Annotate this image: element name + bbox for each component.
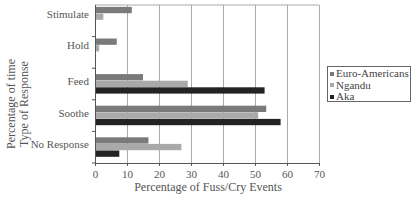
- bar-euro-americans-no-response: [96, 137, 148, 143]
- bar-euro-americans-hold: [96, 39, 117, 45]
- x-tick-label: 60: [282, 168, 294, 180]
- category-label: No Response: [31, 138, 89, 150]
- legend-label-euro-americans: Euro-Americans: [336, 68, 409, 80]
- y-axis-title: Percentage of time Type of Response: [4, 59, 31, 149]
- category-label: Feed: [68, 75, 90, 87]
- category-label: Stimulate: [47, 8, 89, 20]
- category-label: Hold: [67, 39, 90, 51]
- bar-euro-americans-feed: [96, 74, 143, 80]
- legend-swatch-ngandu: [330, 83, 334, 87]
- legend-item-aka: Aka: [330, 91, 410, 103]
- x-tick-label: 10: [122, 168, 134, 180]
- y-axis-title-line-2: Type of Response: [17, 61, 31, 147]
- x-axis-title: Percentage of Fuss/Cry Events: [134, 180, 282, 194]
- legend-swatch-euro-americans: [330, 72, 334, 76]
- x-tick-labels: 010203040506070: [93, 168, 326, 180]
- bar-ngandu-no-response: [96, 144, 181, 150]
- bar-ngandu-feed: [96, 81, 188, 87]
- category-labels: StimulateHoldFeedSootheNo Response: [31, 8, 90, 150]
- bar-aka-feed: [96, 87, 265, 93]
- y-axis-title-line-1: Percentage of time: [4, 59, 18, 149]
- bar-ngandu-stimulate: [96, 14, 103, 20]
- bar-aka-no-response: [96, 151, 119, 157]
- x-tick-label: 0: [93, 168, 99, 180]
- x-tick-label: 20: [154, 168, 166, 180]
- legend: Euro-Americans Ngandu Aka: [327, 66, 411, 102]
- legend-item-euro-americans: Euro-Americans: [330, 68, 410, 80]
- x-tick-label: 40: [218, 168, 230, 180]
- legend-label-aka: Aka: [336, 91, 354, 103]
- legend-swatch-aka: [330, 95, 334, 99]
- bar-ngandu-soothe: [96, 112, 258, 118]
- bars: [96, 7, 281, 157]
- bar-euro-americans-soothe: [96, 106, 266, 112]
- category-label: Soothe: [58, 107, 89, 119]
- bar-euro-americans-stimulate: [96, 7, 132, 13]
- x-tick-label: 50: [250, 168, 262, 180]
- x-tick-label: 70: [314, 168, 326, 180]
- bar-aka-soothe: [96, 119, 281, 125]
- x-tick-label: 30: [186, 168, 198, 180]
- bar-ngandu-hold: [96, 45, 99, 51]
